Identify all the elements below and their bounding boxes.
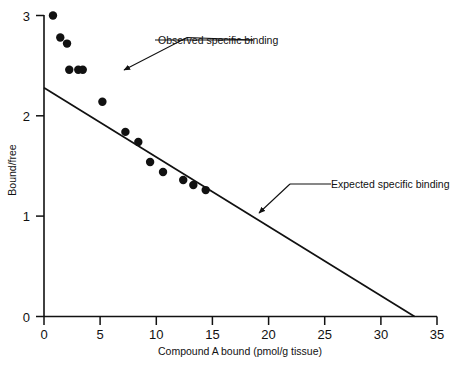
- y-tick-label-1: 1: [23, 209, 30, 224]
- data-point: [65, 65, 73, 73]
- data-point: [146, 158, 154, 166]
- x-tick-label-35: 35: [430, 327, 444, 342]
- x-tick-label-5: 5: [96, 327, 103, 342]
- x-axis-ticks: [44, 317, 437, 326]
- x-tick-label-0: 0: [40, 327, 47, 342]
- x-tick-label-25: 25: [317, 327, 331, 342]
- data-point: [179, 176, 187, 184]
- y-tick-label-0: 0: [23, 310, 30, 325]
- data-point: [79, 65, 87, 73]
- annotation-expected-label: Expected specific binding: [331, 178, 450, 190]
- chart-container: 3 2 1 0 0 5 10 15 20 25 30 35 Compound A…: [0, 0, 455, 370]
- annotation-expected: Expected specific binding: [259, 178, 450, 213]
- x-axis-title: Compound A bound (pmol/g tissue): [158, 345, 322, 357]
- data-point: [159, 168, 167, 176]
- data-point: [49, 11, 57, 19]
- data-point: [63, 39, 71, 47]
- y-tick-label-2: 2: [23, 109, 30, 124]
- x-tick-label-20: 20: [261, 327, 275, 342]
- annotation-observed-label: Observed specific binding: [158, 34, 278, 46]
- data-point: [201, 186, 209, 194]
- scatter-plot-svg: 3 2 1 0 0 5 10 15 20 25 30 35 Compound A…: [0, 0, 455, 370]
- x-tick-label-15: 15: [205, 327, 219, 342]
- data-point: [134, 138, 142, 146]
- data-point: [189, 181, 197, 189]
- data-point: [56, 33, 64, 41]
- annotation-observed: Observed specific binding: [124, 34, 278, 70]
- y-axis-title: Bound/free: [6, 144, 18, 196]
- x-tick-label-30: 30: [374, 327, 388, 342]
- x-tick-label-10: 10: [149, 327, 163, 342]
- y-axis-ticks: [36, 16, 44, 317]
- y-tick-label-3: 3: [23, 9, 30, 24]
- expected-binding-line: [44, 88, 415, 317]
- data-point: [98, 98, 106, 106]
- data-point: [121, 128, 129, 136]
